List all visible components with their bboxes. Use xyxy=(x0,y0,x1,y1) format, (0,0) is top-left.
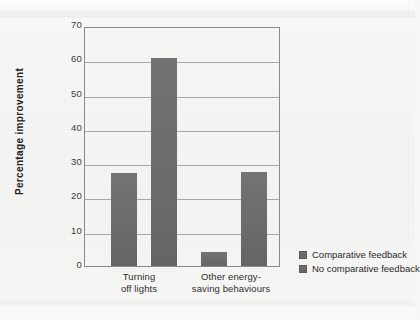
x-label-line-1: Turning xyxy=(99,271,179,283)
gridline-40 xyxy=(85,131,279,132)
legend-item-comparative-feedback: Comparative feedback xyxy=(299,248,420,262)
y-tick-70: 70 xyxy=(58,20,82,30)
bar-turning-off-lights-no-comparative xyxy=(151,58,177,266)
bar-other-behaviours-no-comparative xyxy=(241,172,267,266)
x-category-label-turning-off-lights: Turning off lights xyxy=(99,271,179,294)
legend-swatch-icon xyxy=(299,251,307,259)
gridline-50 xyxy=(85,97,279,98)
y-tick-0: 0 xyxy=(58,260,82,270)
x-category-label-other-energy-saving: Other energy- saving behaviours xyxy=(176,271,286,294)
x-label-line-2: off lights xyxy=(99,283,179,295)
gridline-30 xyxy=(85,165,279,166)
x-label-line-2: saving behaviours xyxy=(176,283,286,295)
legend-label: Comparative feedback xyxy=(312,248,407,262)
x-label-line-1: Other energy- xyxy=(176,271,286,283)
y-tick-60: 60 xyxy=(58,54,82,64)
chart-legend: Comparative feedback No comparative feed… xyxy=(299,248,420,276)
plot-area xyxy=(84,27,280,267)
y-tick-30: 30 xyxy=(58,157,82,167)
y-tick-10: 10 xyxy=(58,226,82,236)
bar-other-behaviours-comparative xyxy=(201,252,227,266)
gridline-60 xyxy=(85,62,279,63)
y-axis-title: Percentage improvement xyxy=(14,52,25,212)
y-tick-40: 40 xyxy=(58,123,82,133)
bar-turning-off-lights-comparative xyxy=(111,173,137,266)
y-tick-50: 50 xyxy=(58,89,82,99)
legend-swatch-icon xyxy=(299,265,307,273)
legend-item-no-comparative-feedback: No comparative feedback xyxy=(299,262,420,276)
legend-label: No comparative feedback xyxy=(312,262,420,276)
y-tick-20: 20 xyxy=(58,191,82,201)
y-axis-tick-labels: 70 60 50 40 30 20 10 0 xyxy=(58,20,82,274)
